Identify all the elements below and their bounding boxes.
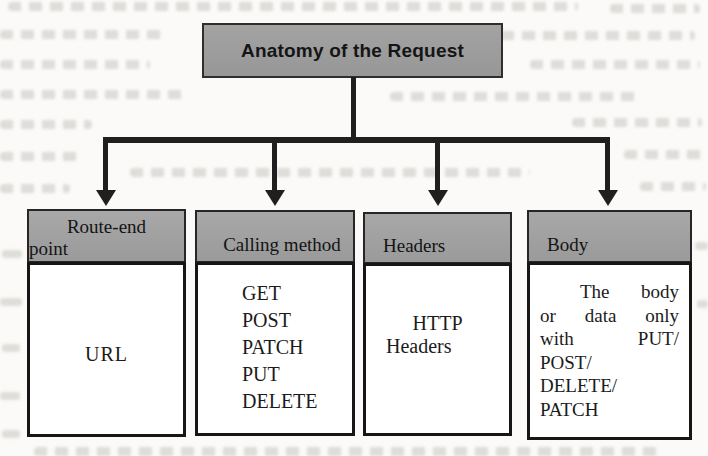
column-route-endpoint-header: Route-end point (27, 209, 186, 263)
column-body: Body The body or data only with PUT/ POS… (527, 210, 692, 440)
bleed-through-text (697, 300, 708, 308)
down-arrow-icon (428, 140, 448, 206)
bleed-through-text (480, 31, 695, 40)
bleed-through-text (8, 2, 578, 11)
body-line: URL (30, 343, 183, 366)
diagram-title-box: Anatomy of the Request (202, 23, 503, 78)
header-line: Body (547, 234, 588, 256)
body-line: DELETE/ (540, 374, 679, 398)
down-arrow-icon (598, 140, 618, 206)
body-line: with PUT/ (540, 327, 679, 351)
arrow-shaft (103, 140, 108, 192)
bleed-through-text (390, 92, 640, 101)
bleed-through-text (0, 60, 150, 69)
body-line: PUT (242, 361, 352, 388)
bleed-through-text (624, 150, 704, 159)
body-line: Headers (366, 335, 509, 358)
scanned-book-page: Anatomy of the Request Route-end point U… (0, 0, 708, 456)
down-arrow-icon (96, 140, 116, 206)
bleed-through-text (0, 120, 92, 129)
bleed-through-text (34, 447, 664, 456)
bleed-through-text (2, 344, 20, 352)
bleed-through-text (0, 30, 165, 39)
diagram-title: Anatomy of the Request (241, 40, 464, 62)
column-headers-header: Headers (363, 212, 512, 264)
column-route-endpoint-body: URL (27, 262, 186, 437)
header-line: Route-end (29, 216, 184, 238)
body-line: PATCH (540, 398, 679, 422)
connector-stem (351, 77, 356, 139)
connector-bar (103, 137, 610, 143)
bleed-through-text (0, 298, 22, 306)
body-line: PATCH (242, 334, 352, 361)
arrow-shaft (272, 140, 277, 192)
column-body-header: Body (527, 210, 692, 263)
bleed-through-text (610, 4, 700, 13)
header-line: Headers (383, 235, 445, 257)
column-body-body: The body or data only with PUT/ POST/ DE… (527, 262, 692, 440)
bleed-through-text (0, 152, 80, 161)
column-headers: Headers HTTP Headers (363, 212, 512, 436)
arrow-tip (428, 190, 448, 206)
body-line: HTTP (366, 312, 509, 335)
down-arrow-icon (265, 140, 285, 206)
bleed-through-text (0, 184, 70, 193)
column-calling-method-body: GET POST PATCH PUT DELETE (195, 262, 355, 436)
arrow-shaft (435, 140, 440, 192)
column-headers-body: HTTP Headers (363, 263, 512, 436)
bleed-through-text (695, 242, 708, 250)
bleed-through-text (572, 118, 702, 127)
body-line: DELETE (242, 388, 352, 415)
column-route-endpoint: Route-end point URL (27, 209, 186, 437)
header-line: Calling method (223, 234, 341, 256)
arrow-shaft (605, 140, 610, 192)
body-line: POST/ (540, 351, 679, 375)
arrow-tip (265, 190, 285, 206)
bleed-through-text (530, 60, 700, 69)
body-line: POST (242, 307, 352, 334)
body-line: or data only (540, 304, 679, 328)
bleed-through-text (0, 90, 185, 99)
header-line: point (29, 238, 184, 260)
column-calling-method-header: Calling method (195, 210, 355, 263)
body-line: The body (540, 280, 679, 304)
bleed-through-text (130, 168, 530, 177)
arrow-tip (598, 190, 618, 206)
bleed-through-text (640, 182, 706, 191)
bleed-through-text (2, 430, 20, 438)
bleed-through-text (0, 392, 20, 400)
arrow-tip (96, 190, 116, 206)
column-calling-method: Calling method GET POST PATCH PUT DELETE (195, 210, 355, 436)
body-line: GET (242, 280, 352, 307)
bleed-through-text (2, 250, 22, 258)
